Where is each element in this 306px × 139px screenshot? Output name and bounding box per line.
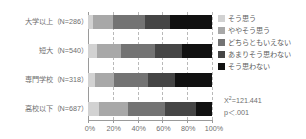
- legend-item: どちらともいえない: [218, 37, 306, 48]
- bar-segment: [93, 15, 113, 29]
- legend-swatch-icon: [218, 63, 225, 70]
- bar-segment: [145, 15, 170, 29]
- bar-segment: [121, 44, 154, 58]
- legend-swatch-icon: [218, 15, 225, 22]
- x-tick-label-0: 0%: [85, 124, 95, 133]
- bar-segment: [148, 73, 175, 87]
- legend-label: あまりそう思わない: [228, 50, 291, 59]
- legend: そう思う ややそう思う どちらともいえない あまりそう思わない そう思わない: [218, 13, 306, 73]
- bar-segment: [95, 73, 114, 87]
- bar-row: [88, 15, 212, 29]
- bar-segment: [113, 15, 145, 29]
- x-tick-label-20: 20%: [107, 124, 121, 133]
- category-label-koukou-ika: 高校以下（N=687）: [4, 104, 88, 113]
- x-tick-label-60: 60%: [156, 124, 170, 133]
- legend-item: そう思わない: [218, 61, 306, 72]
- bar-segment: [182, 44, 212, 58]
- legend-item: そう思う: [218, 13, 306, 24]
- statistics-annotation: X2=121.441 p＜.001: [224, 92, 262, 119]
- chi-square-value: =121.441: [232, 96, 262, 105]
- legend-label: そう思わない: [228, 62, 270, 71]
- legend-item: あまりそう思わない: [218, 49, 306, 60]
- bar-segment: [97, 44, 122, 58]
- bar-segment: [165, 102, 196, 116]
- x-tick-0: [88, 120, 89, 123]
- category-label-senmongakkou: 専門学校（N=318）: [4, 75, 88, 84]
- bar-segment: [88, 73, 95, 87]
- legend-label: ややそう思う: [228, 26, 270, 35]
- legend-swatch-icon: [218, 51, 225, 58]
- category-label-tandai: 短大（N=540）: [4, 46, 88, 55]
- bar-segment: [196, 102, 212, 116]
- chi-square-line: X2=121.441: [224, 92, 262, 107]
- legend-swatch-icon: [218, 27, 225, 34]
- x-tick-60: [162, 120, 163, 123]
- bar-segment: [128, 102, 165, 116]
- x-axis-line: [88, 120, 212, 121]
- bar-segment: [88, 102, 99, 116]
- x-tick-label-100: 100%: [205, 124, 223, 133]
- bar-segment: [170, 15, 212, 29]
- category-label-daigaku-ijou: 大学以上（N=286）: [4, 17, 88, 26]
- bar-row: [88, 44, 212, 58]
- bar-segment: [99, 102, 128, 116]
- plot-area: [88, 12, 212, 120]
- x-tick-20: [113, 120, 114, 123]
- x-tick-80: [187, 120, 188, 123]
- bar-row: [88, 102, 212, 116]
- x-tick-label-80: 80%: [181, 124, 195, 133]
- x-tick-40: [138, 120, 139, 123]
- x-tick-label-40: 40%: [131, 124, 145, 133]
- bar-segment: [88, 44, 97, 58]
- x-tick-100: [212, 120, 213, 123]
- bar-row: [88, 73, 212, 87]
- legend-item: ややそう思う: [218, 25, 306, 36]
- bar-segment: [155, 44, 182, 58]
- legend-swatch-icon: [218, 39, 225, 46]
- bar-segment: [175, 73, 212, 87]
- stacked-bar-chart: 大学以上（N=286） 短大（N=540） 専門学校（N=318） 高校以下（N…: [0, 0, 306, 139]
- p-value-line: p＜.001: [224, 107, 262, 119]
- bar-segment: [114, 73, 147, 87]
- legend-label: そう思う: [228, 14, 256, 23]
- legend-label: どちらともいえない: [228, 38, 291, 47]
